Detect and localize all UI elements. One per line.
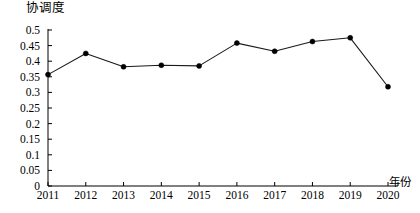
- data-point-2014[interactable]: [159, 63, 164, 68]
- data-point-2013[interactable]: [121, 64, 126, 69]
- data-point-2015[interactable]: [197, 63, 202, 68]
- data-point-2019[interactable]: [348, 35, 353, 40]
- data-point-2012[interactable]: [83, 51, 88, 56]
- chart-figure: 协调度 年份 00.050.10.150.20.250.30.350.40.45…: [0, 0, 420, 213]
- axes: [48, 29, 398, 186]
- line-chart-plot: [0, 0, 420, 213]
- data-point-2011[interactable]: [46, 72, 51, 77]
- data-point-2016[interactable]: [234, 41, 239, 46]
- data-point-2018[interactable]: [310, 39, 315, 44]
- series-line: [48, 38, 388, 87]
- data-point-2017[interactable]: [272, 49, 277, 54]
- data-series-coordination-degree: [46, 35, 391, 89]
- data-point-2020[interactable]: [386, 84, 391, 89]
